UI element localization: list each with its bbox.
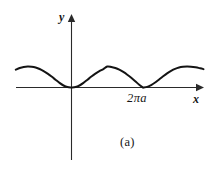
x-axis-label: x xyxy=(193,93,199,105)
cycloid-curve xyxy=(16,66,204,87)
figure-caption: (a) xyxy=(120,136,135,149)
x-axis-arrow-icon xyxy=(196,84,204,91)
y-axis-arrow-icon xyxy=(68,14,75,22)
x-tick-label-2pia: 2πa xyxy=(127,92,147,105)
cycloid-plot-svg xyxy=(0,0,218,171)
cycloid-figure: y x 2πa (a) xyxy=(0,0,218,171)
y-axis-label: y xyxy=(59,11,64,23)
